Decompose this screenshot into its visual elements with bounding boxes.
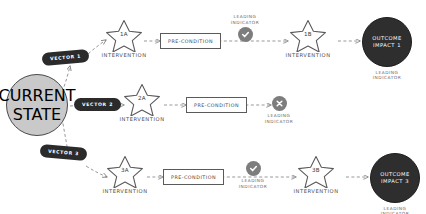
star-shape-3a: 3A [105,154,145,188]
indicator-caption-line2-3: INDICATOR [239,184,268,189]
star-shape-2a: 2A [122,82,162,116]
outcome-line2-1: IMPACT 1 [372,42,402,49]
leading-indicator-2[interactable]: LEADING INDICATOR [252,94,306,124]
current-state-line2: STATE [0,105,75,124]
current-state-label: CURRENT STATE [0,86,75,124]
check-icon-1 [238,27,253,42]
outcome-caption-line2-3: INDICATOR [381,211,410,214]
vector-pill-2[interactable]: VECTOR 2 [74,98,121,111]
leading-indicator-1[interactable]: LEADING INDICATOR [218,14,272,44]
outcome-line1-3: OUTCOME [380,171,410,178]
outcome-node-1[interactable]: OUTCOME IMPACT 1 LEADING INDICATOR [350,17,424,81]
outcome-caption-line1-3: LEADING [383,206,406,211]
precondition-box-2[interactable]: PRE-CONDITION [186,97,247,113]
precondition-box-1[interactable]: PRE-CONDITION [160,33,221,49]
outcome-node-3[interactable]: OUTCOME IMPACT 3 LEADING INDICATOR [358,153,426,214]
star-caption-3b: INTERVENTION [285,188,347,194]
indicator-caption-line2-1: INDICATOR [231,20,260,25]
current-state-line1: CURRENT [0,86,75,105]
intervention-star-3a[interactable]: 3A INTERVENTION [105,154,145,194]
x-icon-2 [272,96,287,111]
indicator-caption-line1-3: LEADING [241,178,264,183]
star-number-2a: 2A [122,95,162,101]
outcome-caption-line2-1: INDICATOR [373,75,402,80]
outcome-circle-1: OUTCOME IMPACT 1 [362,17,412,67]
outcome-caption-3: LEADING INDICATOR [381,206,410,214]
star-shape-1b: 1B [288,18,328,52]
diagram-canvas: CURRENT STATE VECTOR 1 VECTOR 2 VECTOR 3… [0,0,426,214]
star-caption-1a: INTERVENTION [93,52,155,58]
star-number-3a: 3A [105,167,145,173]
star-caption-2a: INTERVENTION [111,116,173,122]
intervention-star-2a[interactable]: 2A INTERVENTION [122,82,162,122]
star-shape-1a: 1A [104,18,144,52]
outcome-label-3: OUTCOME IMPACT 3 [380,171,410,185]
leading-indicator-caption-3: LEADING INDICATOR [239,178,268,189]
intervention-star-1b[interactable]: 1B INTERVENTION [288,18,328,58]
intervention-star-3b[interactable]: 3B INTERVENTION [296,154,336,194]
star-number-1a: 1A [104,31,144,37]
leading-indicator-caption-1: LEADING INDICATOR [231,14,260,25]
edge-vector3-to-star3a [86,166,107,177]
star-number-3b: 3B [296,167,336,173]
outcome-line1-1: OUTCOME [372,35,402,42]
outcome-caption-1: LEADING INDICATOR [373,70,402,81]
outcome-line2-3: IMPACT 3 [380,178,410,185]
intervention-star-1a[interactable]: 1A INTERVENTION [104,18,144,58]
leading-indicator-3[interactable]: LEADING INDICATOR [226,159,280,189]
check-icon-3 [246,161,261,176]
star-caption-1b: INTERVENTION [277,52,339,58]
outcome-caption-line1-1: LEADING [375,70,398,75]
indicator-caption-line2-2: INDICATOR [265,119,294,124]
outcome-circle-3: OUTCOME IMPACT 3 [370,153,420,203]
star-number-1b: 1B [288,31,328,37]
current-state-node[interactable]: CURRENT STATE [6,74,68,136]
star-caption-3a: INTERVENTION [94,188,156,194]
outcome-label-1: OUTCOME IMPACT 1 [372,35,402,49]
indicator-caption-line1-1: LEADING [233,14,256,19]
leading-indicator-caption-2: LEADING INDICATOR [265,113,294,124]
indicator-caption-line1-2: LEADING [267,113,290,118]
precondition-box-3[interactable]: PRE-CONDITION [163,169,224,185]
star-shape-3b: 3B [296,154,336,188]
